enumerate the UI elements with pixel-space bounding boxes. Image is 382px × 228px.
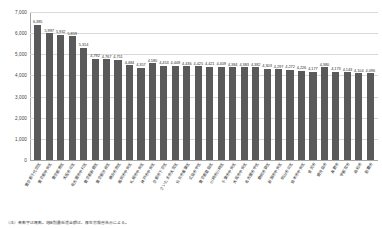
bar-value-label: 4,453	[159, 60, 169, 65]
bar[interactable]: 4,272	[286, 70, 293, 160]
bar-value-label: 4,751	[113, 54, 123, 59]
x-axis-category-label: 那覇市	[364, 162, 373, 174]
bar-value-label: 5,314	[79, 42, 89, 47]
y-axis-tick-label: 7,000	[15, 10, 30, 15]
bar-slot: 4,448	[170, 12, 181, 160]
source-note: （注）各数字は概数。地域別最低賃金額は、厚生労働省告示による。	[6, 219, 128, 225]
bar-slot: 4,104	[353, 12, 364, 160]
bar-value-label: 4,226	[297, 65, 307, 70]
bar-slot: 4,143	[342, 12, 353, 160]
bar[interactable]: 4,425	[195, 66, 202, 160]
x-axis-category-label: 鹿児島市	[317, 162, 328, 178]
bar-slot: 4,177	[307, 12, 318, 160]
y-axis-tick-label: 2,000	[15, 115, 30, 120]
bar[interactable]: 4,383	[241, 67, 248, 160]
bar-value-label: 4,484	[125, 60, 135, 65]
bar-value-label: 4,272	[285, 64, 295, 69]
x-label-slot: 新潟市中央区	[273, 161, 284, 208]
bar-value-label: 4,436	[182, 61, 192, 66]
x-axis-category-label: 宇都宮市	[340, 162, 351, 178]
x-label-slot: 川崎市川崎区	[216, 161, 227, 208]
x-label-slot: 熊本市中央区	[296, 161, 307, 208]
bar-slot: 4,384	[227, 12, 238, 160]
x-label-slot: さいたま市大宮区	[170, 161, 181, 208]
bar-slot: 6,385	[32, 12, 43, 160]
bar[interactable]: 4,143	[344, 72, 351, 160]
bar-value-label: 4,143	[343, 67, 353, 72]
x-axis-category-label: 金沢市	[307, 162, 316, 174]
bar-value-label: 4,303	[262, 63, 272, 68]
bar-value-label: 4,096	[366, 68, 376, 73]
bar-value-label: 5,932	[56, 29, 66, 34]
bar[interactable]: 5,314	[80, 48, 87, 160]
bar-slot: 4,767	[101, 12, 112, 160]
bar-slot: 5,314	[78, 12, 89, 160]
x-label-slot: 那覇市	[365, 161, 376, 208]
x-label-slot: 東京都港区	[55, 161, 66, 208]
bar[interactable]: 4,792	[92, 59, 99, 160]
bar[interactable]: 4,382	[252, 67, 259, 160]
bar[interactable]: 4,751	[114, 60, 121, 160]
bar-value-label: 4,767	[102, 54, 112, 59]
x-label-slot: 金沢市	[307, 161, 318, 208]
y-axis-tick-label: 5,000	[15, 52, 30, 57]
bar[interactable]: 5,859	[69, 36, 76, 160]
bar[interactable]: 4,357	[137, 68, 144, 160]
x-axis-category-label: 東京都千代田区	[24, 162, 41, 188]
bar-series: 6,3855,9975,9325,8595,3144,7924,7674,751…	[30, 12, 378, 160]
bar[interactable]: 4,303	[264, 69, 271, 160]
bar[interactable]: 4,380	[321, 67, 328, 160]
bar[interactable]: 4,173	[332, 72, 339, 160]
bar[interactable]: 4,484	[126, 65, 133, 160]
bar[interactable]: 4,226	[298, 71, 305, 160]
bar-value-label: 4,177	[308, 66, 318, 71]
bar-slot: 5,997	[43, 12, 54, 160]
bar-chart: 7,0006,0005,0004,0003,0002,0001,0000 6,3…	[0, 0, 382, 228]
x-label-slot: 岡山市北区	[284, 161, 295, 208]
bar-value-label: 4,297	[274, 64, 284, 69]
bar-slot: 4,380	[319, 12, 330, 160]
bar-value-label: 4,421	[205, 61, 215, 66]
y-axis-tick-label: 1,000	[15, 136, 30, 141]
bar-slot: 4,226	[296, 12, 307, 160]
bar[interactable]: 4,767	[103, 59, 110, 160]
bar[interactable]: 4,096	[367, 73, 374, 160]
bar-value-label: 4,383	[239, 62, 249, 67]
bar-value-label: 4,104	[354, 68, 364, 73]
bar[interactable]: 4,421	[206, 67, 213, 160]
bar[interactable]: 5,932	[57, 35, 64, 160]
bar[interactable]: 4,384	[229, 67, 236, 160]
bar[interactable]: 5,997	[46, 33, 53, 160]
bar[interactable]: 4,453	[160, 66, 167, 160]
bar-value-label: 5,997	[44, 28, 54, 33]
bar-value-label: 4,382	[251, 62, 261, 67]
bar[interactable]: 4,580	[149, 63, 156, 160]
bar-slot: 4,751	[112, 12, 123, 160]
x-label-slot: 静岡市葵区	[261, 161, 272, 208]
bar-slot: 4,383	[238, 12, 249, 160]
bar-value-label: 4,580	[148, 58, 158, 63]
x-label-slot: 福岡市中央区	[124, 161, 135, 208]
bar-slot: 4,096	[365, 12, 376, 160]
bar[interactable]: 4,297	[275, 69, 282, 160]
bar-slot: 4,421	[204, 12, 215, 160]
bar[interactable]: 4,104	[355, 73, 362, 160]
x-label-slot: 千葉市中央区	[227, 161, 238, 208]
y-axis-tick-label: 3,000	[15, 94, 30, 99]
bar-slot: 5,932	[55, 12, 66, 160]
bar-slot: 4,303	[261, 12, 272, 160]
bar-slot: 4,173	[330, 12, 341, 160]
x-label-slot: 東京都豊島区	[204, 161, 215, 208]
x-label-slot: 高松市	[353, 161, 364, 208]
x-label-slot: 名古屋市中区	[250, 161, 261, 208]
x-label-slot: 東京都千代田区	[32, 161, 43, 208]
bar[interactable]: 6,385	[34, 25, 41, 160]
x-label-slot: 名古屋市中村区	[78, 161, 89, 208]
bar[interactable]: 4,436	[183, 66, 190, 160]
bar[interactable]: 4,409	[218, 67, 225, 160]
x-axis-category-labels: 東京都千代田区東京都中央区東京都港区大阪市北区名古屋市中村区東京都新宿区東京都渋…	[30, 161, 378, 208]
bar-value-label: 4,409	[216, 61, 226, 66]
x-label-slot: 広島市中区	[193, 161, 204, 208]
bar[interactable]: 4,448	[172, 66, 179, 160]
bar[interactable]: 4,177	[309, 72, 316, 160]
